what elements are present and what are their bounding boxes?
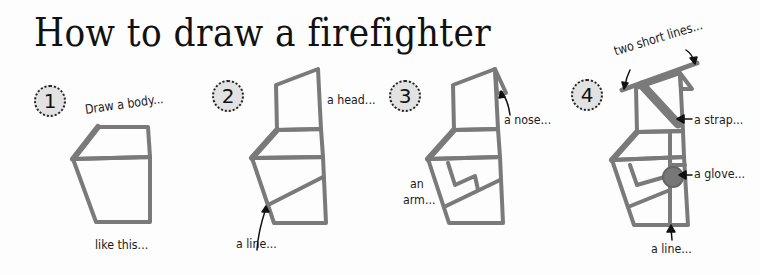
step-4-label-glove: a glove... bbox=[694, 166, 745, 181]
step-1-label-bottom: like this... bbox=[95, 237, 148, 252]
step-3-label-arm-1: an bbox=[410, 176, 424, 191]
step-4-badge: 4 bbox=[571, 79, 603, 111]
step-4-label-line: a line... bbox=[651, 241, 692, 256]
step-3-label-nose: a nose... bbox=[504, 112, 551, 127]
step-2-label-line: a line... bbox=[236, 236, 277, 251]
step-3-drawing bbox=[428, 69, 506, 223]
step-3-badge: 3 bbox=[389, 80, 421, 112]
step-1-badge: 1 bbox=[34, 85, 66, 117]
step-3-label-arm-2: arm... bbox=[403, 192, 435, 207]
step-2-badge: 2 bbox=[212, 80, 244, 112]
step-1-drawing bbox=[73, 127, 150, 222]
step-2-drawing bbox=[252, 69, 326, 223]
step-4-label-strap: a strap... bbox=[694, 112, 743, 127]
step-2-label-head: a head... bbox=[327, 92, 375, 107]
